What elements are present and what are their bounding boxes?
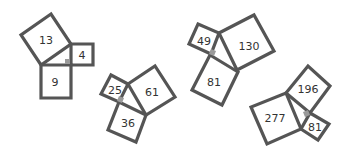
- square-label: 81: [308, 121, 322, 134]
- square-label: 49: [197, 35, 211, 48]
- square-label: 36: [121, 117, 135, 130]
- right-angle-marker: [65, 59, 70, 64]
- square-label: 61: [145, 86, 159, 99]
- square-label: 196: [298, 83, 319, 96]
- figure-2: 25 61 36: [101, 66, 175, 142]
- figure-3: 49 130 81: [189, 15, 274, 105]
- square-label: 9: [52, 76, 59, 89]
- pythagorean-squares-diagram: 13 4 9 25 61 36 49 130 81 196 81 277: [0, 0, 352, 158]
- figure-4: 196 81 277: [251, 66, 330, 144]
- figure-1: 13 4 9: [21, 14, 93, 98]
- square-label: 25: [108, 84, 122, 97]
- square-label: 13: [39, 34, 53, 47]
- square-label: 277: [265, 112, 286, 125]
- square-label: 4: [79, 49, 86, 62]
- square-label: 81: [207, 76, 221, 89]
- square-label: 130: [239, 40, 260, 53]
